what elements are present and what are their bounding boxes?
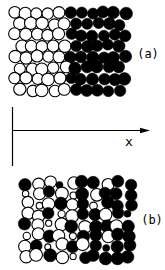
open-particle	[76, 238, 89, 251]
panel-b-label: (b)	[141, 213, 163, 227]
filled-particle	[76, 7, 87, 18]
open-particle	[43, 51, 54, 62]
open-particle	[22, 196, 34, 208]
filled-particle	[77, 208, 89, 220]
filled-particle	[102, 39, 113, 50]
interdiffusion-figure: (a) x (b)	[0, 0, 165, 270]
filled-particle	[107, 6, 119, 18]
open-particle	[58, 211, 65, 218]
filled-particle	[86, 73, 98, 85]
x-axis-arrowhead-icon	[140, 128, 150, 134]
filled-particle	[70, 18, 81, 29]
open-particle	[9, 50, 21, 62]
filled-particle	[81, 85, 93, 97]
filled-particle	[119, 50, 131, 62]
open-particle	[36, 17, 48, 29]
filled-particle	[113, 61, 125, 73]
x-axis-label: x	[125, 134, 133, 149]
filled-particle	[55, 197, 68, 210]
filled-particle	[118, 73, 131, 86]
filled-particle	[70, 84, 82, 96]
filled-particle	[90, 229, 102, 241]
filled-particle	[82, 18, 93, 29]
filled-particle	[75, 30, 87, 42]
open-particle	[46, 220, 52, 226]
filled-particle	[71, 40, 82, 51]
filled-particle	[42, 207, 54, 219]
open-particle	[42, 29, 54, 41]
open-particle	[53, 51, 65, 63]
filled-particle	[90, 60, 103, 73]
open-particle	[70, 253, 76, 259]
filled-particle	[114, 85, 125, 96]
filled-particle	[124, 239, 136, 251]
open-particle	[30, 248, 43, 261]
filled-particle	[103, 18, 115, 30]
filled-particle	[103, 86, 114, 97]
filled-particle	[113, 40, 125, 52]
x-axis: x	[13, 107, 151, 166]
filled-particle	[87, 249, 99, 261]
open-particle	[20, 52, 32, 64]
filled-particle	[109, 29, 120, 40]
filled-particle	[19, 179, 31, 191]
panel-a-particles	[9, 6, 133, 97]
open-particle	[58, 84, 70, 96]
filled-particle	[124, 210, 131, 217]
filled-particle	[91, 84, 103, 96]
filled-particle	[75, 175, 88, 188]
filled-particle	[18, 218, 30, 230]
open-particle	[47, 40, 59, 52]
filled-particle	[103, 245, 110, 252]
open-particle	[35, 84, 48, 97]
filled-particle	[65, 7, 77, 19]
open-particle	[53, 7, 65, 19]
panel-a-label: (a)	[137, 47, 159, 61]
filled-particle	[65, 220, 78, 233]
open-particle	[99, 208, 112, 221]
filled-particle	[99, 252, 112, 265]
filled-particle	[44, 249, 57, 262]
filled-particle	[125, 179, 136, 190]
filled-particle	[112, 175, 124, 187]
open-particle	[54, 72, 66, 84]
open-particle	[59, 40, 71, 52]
open-particle	[56, 251, 68, 263]
filled-particle	[93, 18, 104, 29]
figure-canvas: (a) x (b)	[0, 0, 165, 270]
open-particle	[9, 72, 20, 83]
open-particle	[52, 28, 64, 40]
filled-particle	[120, 7, 133, 20]
open-particle	[20, 28, 32, 40]
open-particle	[48, 62, 59, 73]
filled-particle	[87, 176, 99, 188]
filled-particle	[111, 241, 123, 253]
open-particle	[69, 233, 76, 240]
open-particle	[67, 199, 79, 211]
filled-particle	[43, 186, 54, 197]
open-particle	[32, 228, 44, 240]
filled-particle	[112, 228, 124, 240]
open-particle	[42, 73, 55, 86]
filled-particle	[112, 207, 124, 219]
filled-particle	[121, 251, 134, 264]
open-particle	[31, 50, 43, 62]
open-particle	[14, 83, 26, 95]
filled-particle	[126, 199, 138, 211]
open-particle	[9, 28, 21, 40]
panel-b-particles	[18, 175, 137, 265]
open-particle	[23, 232, 30, 239]
open-particle	[20, 72, 32, 84]
filled-particle	[91, 40, 103, 52]
open-particle	[25, 17, 37, 29]
